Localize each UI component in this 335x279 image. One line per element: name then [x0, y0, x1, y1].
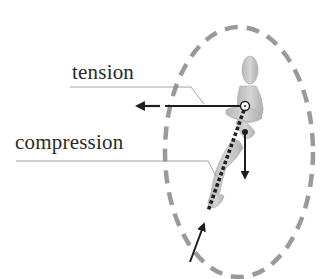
diagram: tension compression	[0, 0, 335, 279]
compression-label: compression	[15, 130, 123, 155]
tension-leader-line	[70, 87, 204, 104]
pivot-center-dot	[244, 105, 246, 107]
tension-label: tension	[72, 60, 134, 85]
compression-leader-line	[16, 161, 216, 176]
